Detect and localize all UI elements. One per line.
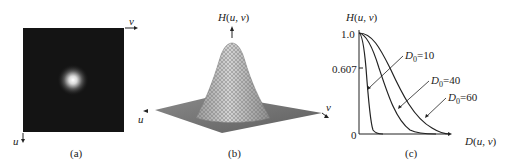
legend-d0-10: D0=10 — [405, 50, 434, 64]
panel-c-caption: (c) — [405, 148, 417, 159]
ytick-1: 1.0 — [341, 29, 355, 40]
panel-c-ylabel: H(u, v) — [346, 12, 377, 23]
figure: v u (a) — [0, 0, 507, 165]
ytick-0: 0 — [351, 130, 357, 141]
legend-d0-40: D0=40 — [431, 75, 460, 89]
legend-d0-60: D0=60 — [448, 92, 477, 106]
ytick-0607: 0.607 — [332, 64, 357, 75]
panel-c-xlabel: D(u, v) — [465, 136, 496, 147]
